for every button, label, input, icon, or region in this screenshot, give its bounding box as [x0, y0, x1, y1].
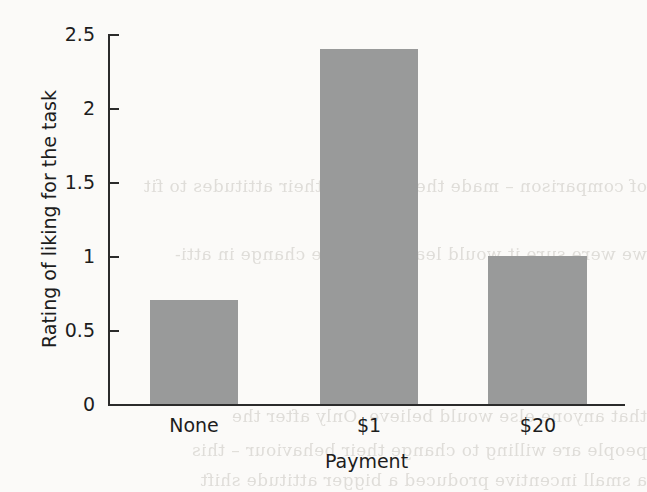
chart-figure: of comparison – made them change their a… [0, 0, 647, 492]
bleed-through-text-5: a small incentive produced a bigger atti… [0, 470, 647, 490]
bar-1-dollar [320, 49, 418, 404]
y-tick-label-1: 1 [83, 247, 95, 266]
y-tick-label-2: 2 [83, 99, 95, 118]
x-tick-label-20-dollar: $20 [520, 416, 556, 435]
bar-none [150, 300, 238, 404]
x-tick-label-1-dollar: $1 [357, 416, 381, 435]
x-tick-label-none: None [169, 416, 219, 435]
x-axis-label: Payment [108, 452, 625, 471]
plot-area: 0 0.5 1 1.5 2 2.5 None $1 [108, 34, 625, 404]
y-axis-label: Rating of liking for the task [32, 34, 66, 404]
y-tick-label-0: 0 [83, 395, 95, 414]
y-tick-label-0-5: 0.5 [65, 321, 95, 340]
y-tick-label-1-5: 1.5 [65, 173, 95, 192]
bar-20-dollar [488, 256, 587, 404]
bar-series [108, 34, 625, 404]
x-axis-line [108, 404, 625, 406]
y-tick-label-2-5: 2.5 [65, 25, 95, 44]
